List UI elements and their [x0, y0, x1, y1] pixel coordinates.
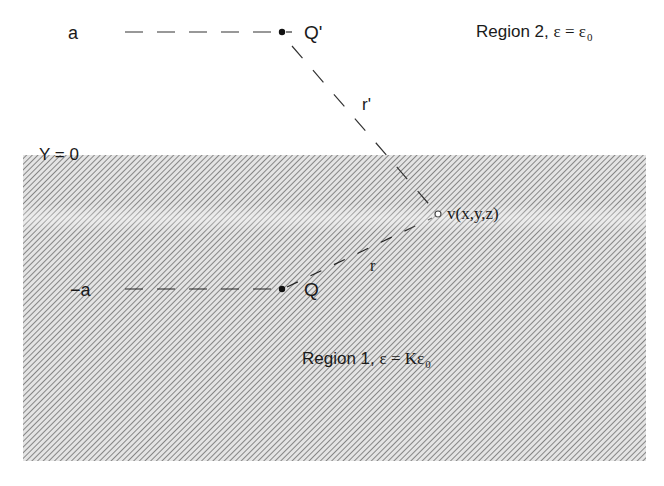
diagram-canvas	[0, 0, 664, 486]
label-a: a	[68, 24, 78, 42]
region1-label: Region 1, ε = Kε0	[302, 350, 431, 367]
label-boundary: Y = 0	[39, 146, 79, 163]
label-image-charge: Q'	[304, 23, 322, 42]
label-field-point: v(x,y,z)	[447, 205, 499, 222]
region1-dielectric	[23, 155, 646, 461]
image-charge-dot	[279, 29, 285, 35]
charge-dot	[279, 286, 285, 292]
label-r-prime: r'	[362, 96, 371, 113]
region1-name: Region 1,	[302, 349, 380, 368]
region2-label: Region 2, ε = ε0	[476, 23, 592, 40]
region2-name: Region 2,	[476, 22, 554, 41]
label-charge: Q	[304, 280, 319, 299]
region1-permittivity: ε = Kε	[380, 349, 425, 368]
region2-permittivity: ε = ε	[554, 22, 586, 41]
scan-artifact-band	[0, 204, 664, 232]
region1-subscript: 0	[425, 358, 431, 370]
region2-subscript: 0	[587, 31, 593, 43]
label-minus-a: −a	[70, 281, 91, 299]
label-r: r	[370, 258, 375, 274]
